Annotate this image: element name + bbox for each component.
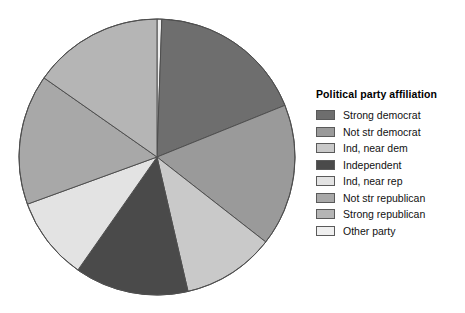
legend-item-label: Ind, near dem [343, 143, 408, 154]
pie-chart-figure: Political party affiliation Strong democ… [0, 0, 465, 313]
legend-item[interactable]: Independent [316, 157, 465, 174]
legend-color-swatch [316, 209, 335, 219]
legend-item-label: Not str democrat [343, 127, 421, 138]
legend-color-swatch [316, 110, 335, 120]
legend-item[interactable]: Ind, near dem [316, 140, 465, 157]
legend-item-label: Strong democrat [343, 110, 421, 121]
legend-color-swatch [316, 226, 335, 236]
legend-item[interactable]: Other party [316, 223, 465, 240]
legend-color-swatch [316, 176, 335, 186]
legend-item-label: Independent [343, 160, 401, 171]
legend-title: Political party affiliation [316, 88, 465, 100]
legend-item-label: Ind, near rep [343, 176, 403, 187]
legend-item[interactable]: Ind, near rep [316, 173, 465, 190]
legend-item-label: Other party [343, 226, 396, 237]
legend-color-swatch [316, 127, 335, 137]
legend-item[interactable]: Not str republican [316, 190, 465, 207]
legend-color-swatch [316, 193, 335, 203]
legend-color-swatch [316, 160, 335, 170]
pie-slice-group [19, 19, 295, 295]
legend-item-label: Not str republican [343, 193, 425, 204]
legend-color-swatch [316, 143, 335, 153]
pie-svg [0, 0, 310, 313]
legend-item[interactable]: Strong democrat [316, 107, 465, 124]
legend-item-label: Strong republican [343, 209, 425, 220]
legend-item[interactable]: Not str democrat [316, 124, 465, 141]
pie-plot-area [0, 0, 310, 313]
legend-item-list: Strong democratNot str democratInd, near… [310, 107, 465, 239]
legend-item[interactable]: Strong republican [316, 206, 465, 223]
chart-legend: Political party affiliation Strong democ… [310, 88, 465, 239]
